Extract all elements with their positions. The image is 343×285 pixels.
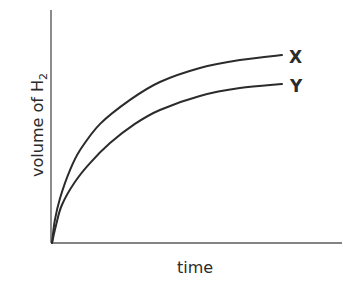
y-axis-label-text: volume of H [28,80,47,177]
chart: X Y time volume of H2 [0,0,343,285]
y-axis-label: volume of H2 [28,73,50,177]
x-axis-label: time [177,258,213,277]
curve-y [52,84,282,243]
series-label-y: Y [289,76,303,96]
series-label-x: X [289,47,302,67]
curve-x [52,55,282,243]
y-axis-label-subscript: 2 [37,73,50,80]
